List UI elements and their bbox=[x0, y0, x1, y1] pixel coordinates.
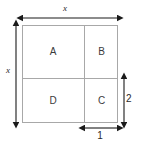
dimension-label-right: 2 bbox=[126, 94, 138, 104]
dimension-label-left: x bbox=[2, 66, 14, 75]
dimension-label-top: x bbox=[55, 4, 75, 13]
dimension-label-bottom: 1 bbox=[92, 131, 108, 141]
dimension-arrows bbox=[0, 0, 142, 145]
geometry-figure: A B C D x x 2 1 bbox=[0, 0, 142, 145]
